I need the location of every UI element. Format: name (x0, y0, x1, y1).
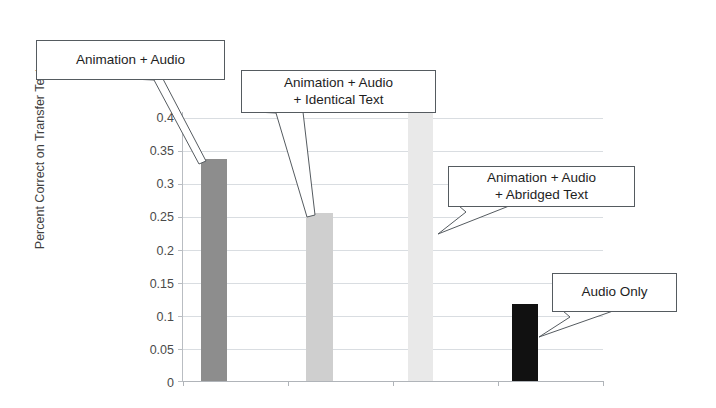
callout-animation-audio-abridged-text-label-line1: Animation + Audio (487, 170, 596, 187)
bar-chart-figure: Percent Correct on Transfer Test 0.4 0.3… (0, 0, 716, 408)
callout-animation-audio-label: Animation + Audio (76, 52, 185, 69)
callout-animation-audio-box[interactable]: Animation + Audio (36, 40, 225, 80)
callout-audio-only-label: Audio Only (581, 284, 647, 301)
callout-animation-audio-abridged-text-label-line2: + Abridged Text (495, 187, 588, 204)
callout-animation-audio-abridged-text-box[interactable]: Animation + Audio + Abridged Text (448, 166, 635, 207)
callout-animation-audio-identical-text-label-line1: Animation + Audio (284, 75, 393, 92)
callout-animation-audio-identical-text-label-line2: + Identical Text (293, 92, 383, 109)
callout-animation-audio-identical-text-box[interactable]: Animation + Audio + Identical Text (241, 70, 436, 113)
callout-audio-only-box[interactable]: Audio Only (552, 273, 677, 312)
